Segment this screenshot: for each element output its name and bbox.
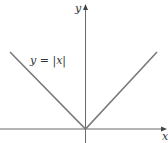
x-axis-label: x	[162, 130, 168, 143]
function-label: y = |x|	[29, 54, 66, 68]
y-axis-label: y	[74, 2, 82, 15]
y-axis-arrow-icon	[83, 4, 88, 10]
graph: y x y = |x|	[0, 0, 168, 143]
